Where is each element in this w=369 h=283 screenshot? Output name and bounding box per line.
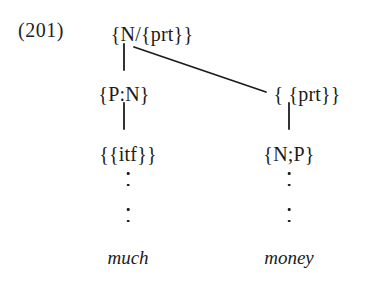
ellipsis-dot	[288, 220, 291, 223]
ellipsis-dot	[288, 184, 291, 187]
tree-node-right-lower: {N;P}	[263, 144, 314, 164]
ellipsis-dot	[127, 208, 130, 211]
tree-terminal-much: much	[107, 248, 148, 267]
tree-node-left-lower: {{itf}}	[99, 144, 157, 164]
ellipsis-left-lower	[127, 208, 130, 222]
example-number: (201)	[18, 20, 64, 40]
ellipsis-dot	[127, 172, 130, 175]
tree-diagram-figure: (201) {N/{prt}} {P:N} {{itf}} much { {pr…	[0, 0, 369, 283]
ellipsis-dot	[127, 184, 130, 187]
ellipsis-right-lower	[288, 208, 291, 222]
ellipsis-right-upper	[288, 172, 291, 186]
tree-node-left-mid: {P:N}	[98, 84, 149, 104]
ellipsis-dot	[288, 208, 291, 211]
tree-node-right-mid: { {prt}}	[273, 84, 340, 104]
tree-node-root: {N/{prt}}	[111, 24, 193, 44]
edge-root-to-right-diagonal	[134, 47, 266, 92]
ellipsis-dot	[127, 220, 130, 223]
ellipsis-left-upper	[127, 172, 130, 186]
ellipsis-dot	[288, 172, 291, 175]
tree-terminal-money: money	[264, 248, 314, 267]
